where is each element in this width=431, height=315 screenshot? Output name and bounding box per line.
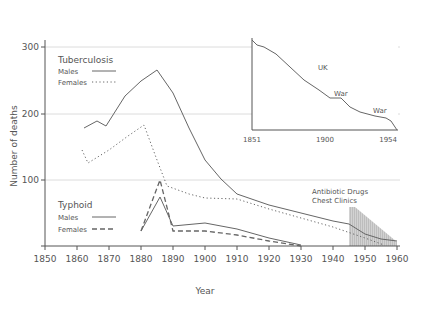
legend-tb-title: Tuberculosis — [57, 55, 113, 65]
y-tick-200: 200 — [22, 109, 39, 119]
x-tick-1870: 1870 — [98, 254, 121, 264]
x-tick-1860: 1860 — [66, 254, 89, 264]
x-tick-1930: 1930 — [290, 254, 313, 264]
x-tick-1850: 1850 — [34, 254, 57, 264]
inset-tick-1851: 1851 — [243, 136, 261, 144]
x-tick-1880: 1880 — [130, 254, 153, 264]
legend-tb-females: Females — [58, 79, 87, 87]
y-tick-300: 300 — [22, 42, 39, 52]
antibiotic-annotation: Antibiotic Drugs Chest Clinics — [312, 188, 368, 205]
x-tick-1890: 1890 — [162, 254, 185, 264]
x-tick-1900: 1900 — [194, 254, 217, 264]
legend-tuberculosis: Tuberculosis Males Females — [57, 55, 116, 87]
legend-ty-title: Typhoid — [57, 200, 93, 210]
legend-ty-females: Females — [58, 226, 87, 234]
line-chart: 300 200 100 1850 1860 1870 1880 1890 190… — [0, 0, 431, 315]
inset-war-label-2: War — [373, 107, 387, 115]
series-tb-females — [82, 125, 384, 245]
legend-ty-males: Males — [58, 214, 79, 222]
inset-war-label-1: War — [334, 90, 348, 98]
x-tick-1940: 1940 — [322, 254, 345, 264]
x-tick-1950: 1950 — [354, 254, 377, 264]
x-tick-1960: 1960 — [386, 254, 409, 264]
y-axis-title: Number of deaths — [9, 105, 19, 187]
annotation-chest-clinics: Chest Clinics — [312, 197, 357, 205]
inset-uk-chart: UK War War 1851 1900 1954 — [243, 38, 398, 144]
x-tick-1920: 1920 — [258, 254, 281, 264]
legend-typhoid: Typhoid Males Females — [57, 200, 116, 234]
series-typhoid-males — [141, 197, 301, 245]
x-tick-1910: 1910 — [226, 254, 249, 264]
legend-tb-males: Males — [58, 68, 79, 76]
x-axis-title: Year — [194, 286, 214, 296]
annotation-antibiotic-drugs: Antibiotic Drugs — [312, 188, 368, 196]
inset-uk-label: UK — [318, 64, 328, 72]
inset-tick-1900: 1900 — [316, 136, 334, 144]
y-tick-100: 100 — [22, 175, 39, 185]
series-typhoid-females — [141, 180, 301, 246]
inset-tick-1954: 1954 — [379, 136, 397, 144]
